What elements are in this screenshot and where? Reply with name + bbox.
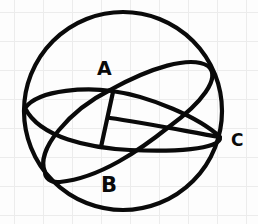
label-point-b: B: [101, 175, 117, 196]
diagram-canvas: A B C: [0, 0, 258, 224]
label-point-c: C: [231, 132, 243, 149]
segment-to-c: [110, 118, 219, 137]
sphere-diagram: [0, 0, 258, 224]
label-point-a: A: [97, 59, 112, 78]
